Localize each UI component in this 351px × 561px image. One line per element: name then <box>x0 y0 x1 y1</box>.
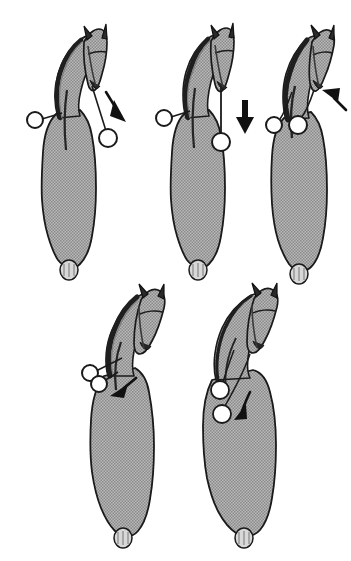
figure-5-svg <box>198 280 323 542</box>
lower-rein-ring <box>213 405 231 423</box>
figure-3-svg <box>258 18 351 278</box>
direction-arrow <box>106 92 126 122</box>
horse-tail <box>235 528 253 548</box>
direction-arrow <box>236 100 254 134</box>
right-rein-line <box>92 86 106 131</box>
left-rein-ring <box>27 112 43 128</box>
horse-figure-3 <box>258 18 351 278</box>
horse-body <box>271 112 327 271</box>
direction-arrow <box>322 88 346 110</box>
right-rein-ring <box>212 133 230 151</box>
right-rein-ring <box>99 129 117 147</box>
left-rein-ring <box>156 110 172 126</box>
horse-figure-2 <box>148 18 268 278</box>
horse-tail <box>60 260 78 280</box>
figure-2-svg <box>148 18 268 278</box>
lower-rein-ring <box>91 376 107 392</box>
horse-body <box>42 110 96 267</box>
upper-rein-ring <box>211 381 229 399</box>
right-rein-ring <box>289 116 307 134</box>
horse-tail <box>114 528 132 548</box>
horse-figure-5 <box>198 280 323 542</box>
left-rein-ring <box>266 117 282 133</box>
figure-plate <box>0 0 351 561</box>
figure-1-svg <box>18 18 148 278</box>
horse-figure-4 <box>78 280 203 542</box>
figure-4-svg <box>78 280 203 542</box>
horse-figure-1 <box>18 18 148 278</box>
horse-tail <box>189 260 207 280</box>
